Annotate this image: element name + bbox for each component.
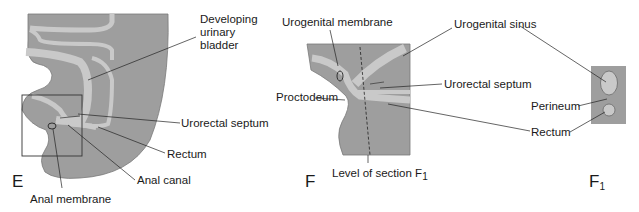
label-e-urorectal-septum: Urorectal septum xyxy=(181,117,269,130)
label-level-of-section: Level of section F1 xyxy=(332,167,428,183)
label-anal-membrane: Anal membrane xyxy=(30,193,111,206)
label-developing-line3: bladder xyxy=(200,39,238,52)
label-developing-line2: urinary xyxy=(200,26,235,39)
label-proctodeum: Proctodeum xyxy=(276,91,338,104)
panel-f-drawing xyxy=(307,28,530,163)
panel-letter-e: E xyxy=(12,172,23,192)
panel-f1-drawing xyxy=(520,26,626,132)
panel-letter-f1: F1 xyxy=(589,172,605,192)
label-urogenital-membrane: Urogenital membrane xyxy=(282,16,393,29)
label-perineum: Perineum xyxy=(531,100,580,113)
panel-letter-f: F xyxy=(305,172,315,192)
panel-e-drawing xyxy=(22,14,196,188)
label-anal-canal: Anal canal xyxy=(137,174,191,187)
label-f-urorectal-septum: Urorectal septum xyxy=(444,78,532,91)
label-f-rectum: Rectum xyxy=(531,126,571,139)
label-developing-line1: Developing xyxy=(200,13,258,26)
label-urogenital-sinus: Urogenital sinus xyxy=(454,18,536,31)
label-e-rectum: Rectum xyxy=(167,148,207,161)
